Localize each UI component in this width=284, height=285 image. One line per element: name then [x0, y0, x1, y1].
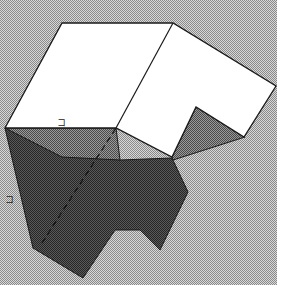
- top-edge-label: コ: [57, 118, 66, 128]
- side-edge-label: コ: [5, 195, 14, 205]
- diagram-canvas: コ コ: [0, 0, 284, 285]
- right-border-strip: [277, 0, 284, 285]
